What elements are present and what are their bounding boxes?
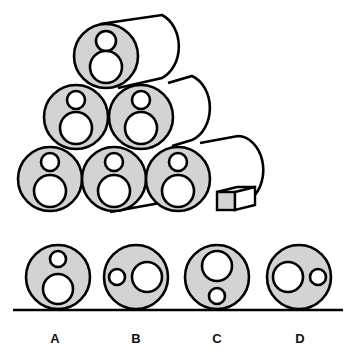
cylinder-stack-diagram [0,0,355,364]
cylinder-end-top [74,24,138,88]
option-d-figure [267,245,331,309]
cylinder-end-bottom-left [18,147,82,211]
option-a-figure [26,245,90,309]
option-c-label[interactable]: C [207,331,227,346]
option-b-label[interactable]: B [126,331,146,346]
cylinder-end-bottom-right [146,147,210,211]
cylinder-end-mid-left [44,85,108,149]
cylinder-body-middle [168,76,210,146]
cylinder-end-bottom-middle [82,147,146,211]
option-a-label[interactable]: A [45,331,65,346]
option-b-figure [104,245,168,309]
cylinder-end-mid-right [109,85,173,149]
option-d-label[interactable]: D [290,331,310,346]
option-c-figure [185,245,249,309]
